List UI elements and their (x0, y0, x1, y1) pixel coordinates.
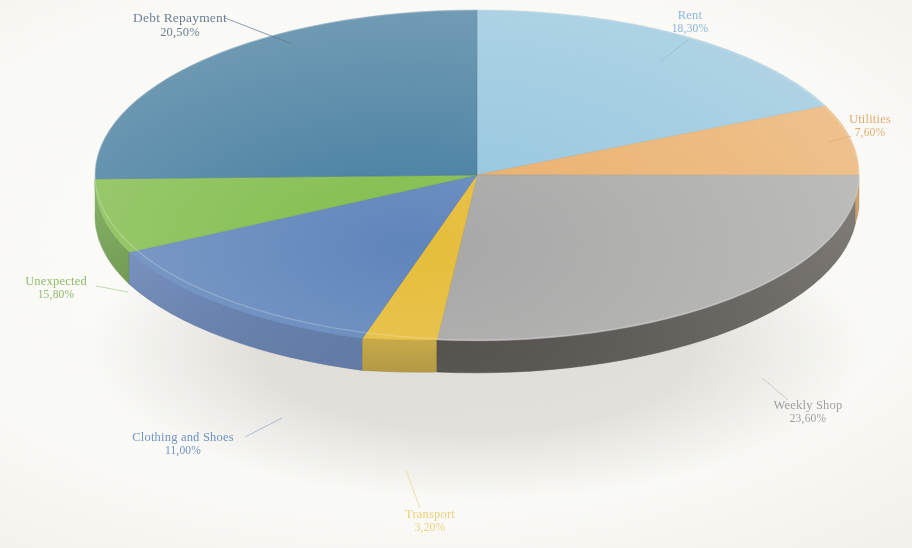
data-label-unexpected-name: Unexpected (4, 274, 108, 288)
data-label-debt-repayment-percent: 20,50% (108, 25, 252, 39)
pie-chart-svg (0, 0, 912, 548)
data-label-utilities: Utilities 7,60% (828, 112, 912, 139)
data-label-utilities-percent: 7,60% (828, 126, 912, 139)
data-label-rent-percent: 18,30% (640, 22, 740, 35)
data-label-weekly-shop: Weekly Shop 23,60% (748, 398, 868, 425)
data-label-unexpected: Unexpected 15,80% (4, 274, 108, 301)
data-label-clothing-and-shoes-name: Clothing and Shoes (108, 430, 258, 444)
data-label-unexpected-percent: 15,80% (4, 288, 108, 301)
data-label-transport-name: Transport (380, 507, 480, 521)
data-label-clothing-and-shoes-percent: 11,00% (108, 444, 258, 457)
data-label-weekly-shop-name: Weekly Shop (748, 398, 868, 412)
data-label-clothing-and-shoes: Clothing and Shoes 11,00% (108, 430, 258, 457)
data-label-rent-name: Rent (640, 8, 740, 22)
data-label-debt-repayment-name: Debt Repayment (108, 10, 252, 25)
data-label-rent: Rent 18,30% (640, 8, 740, 35)
data-label-weekly-shop-percent: 23,60% (748, 412, 868, 425)
data-label-utilities-name: Utilities (828, 112, 912, 126)
pie-graphic-layer (0, 0, 912, 548)
slice-side-transport (363, 338, 438, 372)
data-label-transport-percent: 3,20% (380, 521, 480, 534)
data-label-transport: Transport 3,20% (380, 507, 480, 534)
data-label-debt-repayment: Debt Repayment 20,50% (108, 10, 252, 39)
pie-chart-figure: Rent 18,30% Utilities 7,60% Weekly Shop … (0, 0, 912, 548)
